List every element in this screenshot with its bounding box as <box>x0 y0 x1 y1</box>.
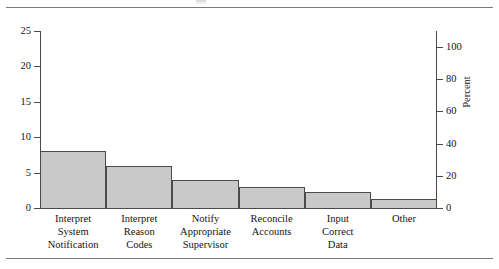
category-label-line: Data <box>305 238 371 251</box>
bar-series <box>40 31 437 208</box>
right-axis-title: Percent <box>461 76 472 108</box>
bottom-axis-line <box>40 208 437 209</box>
right-axis-tick <box>437 144 443 145</box>
left-axis-tick <box>34 31 40 32</box>
category-label: InputCorrectData <box>305 212 371 252</box>
category-label-line: Input <box>305 212 371 225</box>
bar <box>172 180 238 208</box>
left-axis-line <box>40 31 41 209</box>
category-label: NotifyAppropriateSupervisor <box>172 212 238 252</box>
cut-off-text-ghost <box>196 0 206 5</box>
right-axis-tick <box>437 208 443 209</box>
right-axis-line <box>436 31 437 209</box>
pareto-chart-figure: 0510152025 020406080100 InterpretSystemN… <box>0 0 499 269</box>
category-label-line: Supervisor <box>172 238 238 251</box>
bar-cell <box>172 31 238 208</box>
bar-cell <box>371 31 437 208</box>
category-label: ReconcileAccounts <box>239 212 305 252</box>
category-label-line: Interpret <box>106 212 172 225</box>
category-axis-labels: InterpretSystemNotificationInterpretReas… <box>40 212 437 252</box>
left-axis-tick-label: 10 <box>21 132 32 142</box>
category-label-line: Reason <box>106 225 172 238</box>
left-axis-tick-label: 25 <box>21 26 32 36</box>
category-label-line: Interpret <box>40 212 106 225</box>
left-axis-tick <box>34 102 40 103</box>
bar-cell <box>305 31 371 208</box>
left-axis-tick-label: 0 <box>26 203 31 213</box>
left-axis-tick <box>34 208 40 209</box>
bar-cell <box>40 31 106 208</box>
right-axis-tick-label: 100 <box>446 42 462 52</box>
bar <box>305 192 371 208</box>
category-label-line: Other <box>371 212 437 225</box>
category-label: Other <box>371 212 437 252</box>
left-axis-tick <box>34 137 40 138</box>
left-axis-tick <box>34 173 40 174</box>
category-label-line: Notification <box>40 238 106 251</box>
category-label-line: Appropriate <box>172 225 238 238</box>
left-axis-tick <box>34 66 40 67</box>
right-axis-tick-label: 20 <box>446 171 457 181</box>
right-axis-tick <box>437 176 443 177</box>
left-axis-tick-label: 20 <box>21 61 32 71</box>
top-horizontal-rule <box>6 7 493 8</box>
category-label-line: Reconcile <box>239 212 305 225</box>
category-label: InterpretReasonCodes <box>106 212 172 252</box>
right-axis-tick <box>437 111 443 112</box>
right-axis-tick <box>437 47 443 48</box>
category-label-line: Notify <box>172 212 238 225</box>
bar-cell <box>239 31 305 208</box>
plot-area: 0510152025 020406080100 <box>40 31 437 209</box>
bar <box>371 199 437 208</box>
category-label-line: System <box>40 225 106 238</box>
right-axis-tick-label: 40 <box>446 139 457 149</box>
right-axis-tick-label: 60 <box>446 106 457 116</box>
bottom-horizontal-rule <box>6 258 493 259</box>
left-axis-tick-label: 5 <box>26 168 31 178</box>
left-axis-tick-label: 15 <box>21 97 32 107</box>
category-label-line: Correct <box>305 225 371 238</box>
category-label-line: Codes <box>106 238 172 251</box>
category-label: InterpretSystemNotification <box>40 212 106 252</box>
bar <box>106 166 172 208</box>
bar-cell <box>106 31 172 208</box>
bar <box>239 187 305 208</box>
category-label-line: Accounts <box>239 225 305 238</box>
bar <box>40 151 106 208</box>
right-axis-tick-label: 80 <box>446 74 457 84</box>
right-axis-tick-label: 0 <box>446 203 451 213</box>
right-axis-tick <box>437 79 443 80</box>
